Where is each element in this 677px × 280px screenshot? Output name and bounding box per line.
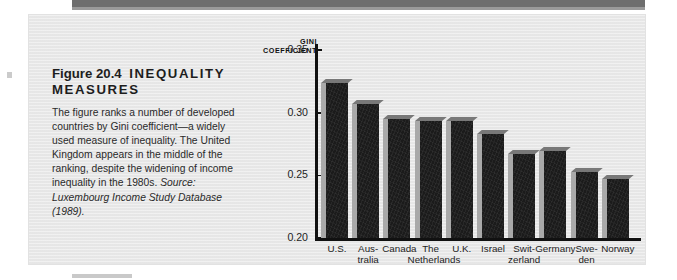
bar-side-face	[352, 104, 357, 238]
bar-top-face	[415, 117, 447, 121]
bar[interactable]	[326, 79, 348, 238]
figure-caption: Figure 20.4 INEQUALITY MEASURES The figu…	[52, 66, 242, 219]
bar-top-face	[571, 168, 603, 172]
bar-side-face	[571, 172, 576, 238]
bar[interactable]	[357, 100, 379, 238]
figure-source-label: Source:	[160, 177, 196, 188]
figure-heading: Figure 20.4 INEQUALITY MEASURES	[52, 66, 242, 98]
y-tick-label: 0.35	[256, 43, 308, 55]
bar[interactable]	[544, 147, 566, 238]
bar-side-face	[539, 151, 544, 238]
y-tick-mark	[315, 49, 322, 51]
x-axis-line	[315, 238, 641, 241]
figure-source-text: Luxembourg Income Study Database (1989).	[52, 192, 222, 217]
bar-top-face	[508, 150, 540, 154]
bar-side-face	[415, 121, 420, 238]
bar-side-face	[446, 121, 451, 238]
y-axis-line	[315, 44, 318, 240]
bar-top-face	[321, 79, 353, 83]
bar-top-face	[352, 100, 384, 104]
gini-bar-chart: GINI COEFFICIENT 0.200.250.300.35 U.S.Au…	[256, 24, 641, 264]
bar-side-face	[321, 83, 326, 238]
y-tick-label: 0.20	[256, 231, 308, 243]
y-tick-label: 0.25	[256, 168, 308, 180]
bar[interactable]	[451, 117, 473, 238]
figure-panel: Figure 20.4 INEQUALITY MEASURES The figu…	[28, 14, 646, 265]
margin-speck	[7, 72, 12, 78]
bar-top-face	[446, 117, 478, 121]
bar-side-face	[383, 119, 388, 238]
y-tick-label: 0.30	[256, 106, 308, 118]
bar[interactable]	[513, 150, 535, 238]
bar-side-face	[477, 134, 482, 238]
bar-top-face	[383, 115, 415, 119]
bar[interactable]	[607, 175, 629, 238]
bar[interactable]	[420, 117, 442, 238]
x-axis-label: Norway	[595, 243, 641, 254]
bar-side-face	[602, 179, 607, 238]
figure-description: The figure ranks a number of developed c…	[52, 106, 242, 219]
figure-number: Figure 20.4	[52, 66, 122, 81]
bar-side-face	[508, 154, 513, 238]
page-top-band	[72, 0, 645, 9]
bar[interactable]	[482, 130, 504, 238]
bar[interactable]	[388, 115, 410, 238]
bar-top-face	[477, 130, 509, 134]
page-bottom-rule	[72, 274, 132, 278]
bar[interactable]	[576, 168, 598, 238]
bar-top-face	[602, 175, 634, 179]
figure-description-text: The figure ranks a number of developed c…	[52, 107, 235, 188]
bar-top-face	[539, 147, 571, 151]
